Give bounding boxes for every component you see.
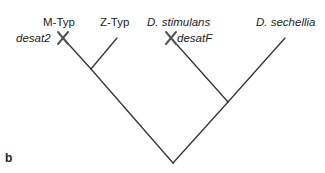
panel-label: b — [5, 151, 12, 165]
taxon-label-z-typ: Z-Typ — [100, 17, 129, 29]
branch-root-right — [173, 102, 228, 163]
branch-d-stimulans — [171, 38, 228, 102]
branch-root-left — [91, 69, 173, 163]
taxon-label-d-sechellia: D. sechellia — [256, 17, 315, 29]
branch-d-sechellia — [228, 38, 285, 102]
gene-label-desat2: desat2 — [16, 33, 51, 45]
branch-z-typ — [91, 38, 117, 69]
gene-loss-marker-desatF — [166, 32, 176, 44]
taxon-label-d-stimulans: D. stimulans — [147, 17, 210, 29]
gene-label-desatF: desatF — [177, 33, 212, 45]
gene-loss-marker-desat2 — [58, 32, 68, 44]
taxon-label-m-typ: M-Typ — [43, 17, 75, 29]
